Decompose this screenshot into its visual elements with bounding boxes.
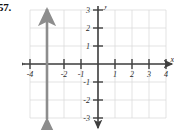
x-tick-label-2: 2 bbox=[130, 70, 134, 79]
y-tick-label-1: 1 bbox=[86, 42, 90, 51]
y-tick-label-neg1: -1 bbox=[83, 78, 90, 87]
problem-number: 57. bbox=[0, 1, 11, 13]
coordinate-plane: -4 -2 -1 1 2 3 4 3 2 1 -1 -2 -3 x y bbox=[22, 6, 174, 130]
x-tick-label-1: 1 bbox=[113, 70, 117, 79]
graph-figure: 57. bbox=[0, 0, 180, 135]
x-tick-label-neg2: -2 bbox=[61, 70, 68, 79]
y-axis-label: y bbox=[103, 6, 108, 10]
y-tick-label-neg3: -3 bbox=[83, 114, 90, 123]
y-tick-label-neg2: -2 bbox=[83, 96, 90, 105]
y-tick-label-3: 3 bbox=[85, 6, 90, 15]
x-tick-label-neg4: -4 bbox=[27, 70, 34, 79]
x-tick-label-3: 3 bbox=[146, 70, 151, 79]
x-axis-label: x bbox=[169, 55, 174, 64]
y-tick-label-2: 2 bbox=[86, 24, 90, 33]
x-tick-label-4: 4 bbox=[164, 70, 168, 79]
